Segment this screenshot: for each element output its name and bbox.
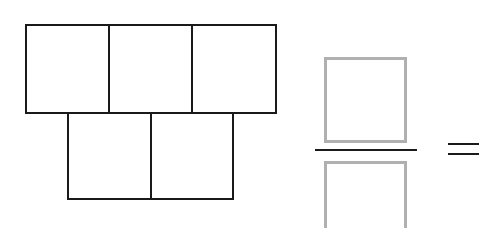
equals-bar-top bbox=[448, 143, 479, 145]
numerator-answer-box[interactable] bbox=[324, 57, 407, 143]
equals-bar-bottom bbox=[448, 153, 479, 155]
fraction-bar bbox=[315, 149, 417, 151]
denominator-answer-box[interactable] bbox=[324, 161, 407, 228]
square-top-2 bbox=[108, 24, 193, 114]
square-top-1 bbox=[25, 24, 110, 114]
square-bottom-1 bbox=[67, 112, 152, 200]
square-bottom-2 bbox=[150, 112, 234, 200]
square-top-3 bbox=[191, 24, 277, 114]
